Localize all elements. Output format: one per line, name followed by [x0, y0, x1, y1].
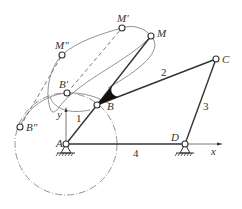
point-b-prime [64, 90, 70, 96]
y-axis-arrow [65, 107, 68, 112]
label-b: B [107, 100, 114, 112]
point-b-double-prime [17, 124, 23, 130]
label-link-1: 1 [76, 112, 82, 124]
label-d: D [170, 131, 179, 143]
joint-a [63, 141, 69, 147]
label-b-prime: B′ [59, 78, 69, 90]
point-m-double-prime [59, 52, 65, 58]
label-link-4: 4 [133, 147, 139, 159]
label-m-double-prime: M″ [54, 39, 69, 51]
dashed-line-b-double-prime-m-double-prime [20, 55, 62, 127]
joint-c [213, 56, 219, 62]
joint-d [182, 141, 188, 147]
label-m: M [156, 27, 167, 39]
linkage-diagram: A B C D M M′ M″ B′ B″ 1 2 3 4 x y [0, 0, 242, 209]
b-curve-inner [50, 97, 90, 111]
point-m [148, 33, 154, 39]
label-link-2: 2 [161, 66, 167, 78]
joint-b [94, 102, 100, 108]
label-m-prime: M′ [116, 12, 129, 24]
point-m-prime [119, 25, 125, 31]
label-x-axis: x [210, 145, 216, 157]
label-c: C [222, 53, 230, 65]
label-a: A [55, 137, 63, 149]
label-y-axis: y [56, 108, 62, 120]
label-b-double-prime: B″ [26, 121, 38, 133]
label-link-3: 3 [203, 100, 209, 112]
x-axis-arrow [217, 143, 223, 146]
link-3-rocker [185, 59, 216, 144]
